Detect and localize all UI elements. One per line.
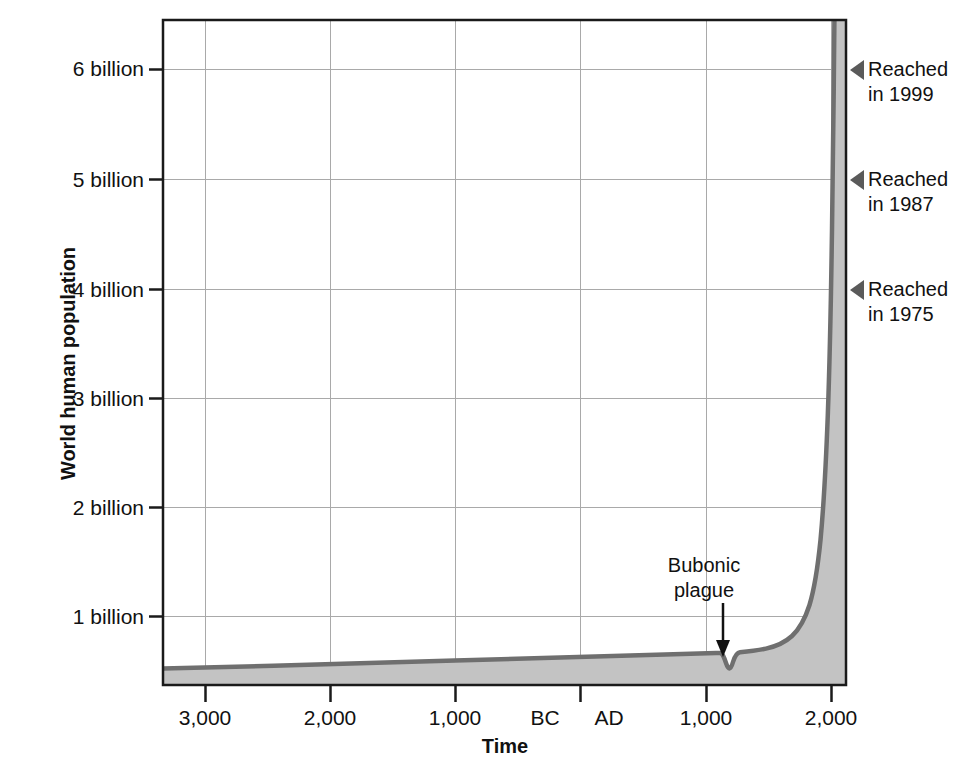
- marker-triangle-1999: [850, 60, 864, 80]
- y-axis-ticks: [149, 70, 163, 617]
- reached-markers: [850, 60, 864, 300]
- annotation-reached-1987-line2: in 1987: [868, 192, 948, 217]
- annotation-reached-1975-line2: in 1975: [868, 302, 948, 327]
- x-tick-label-1000ad: 1,000: [680, 706, 733, 730]
- annotation-reached-1999-line1: Reached: [868, 57, 948, 82]
- annotation-bubonic-plague-line2: plague: [629, 578, 779, 603]
- marker-triangle-1975: [850, 280, 864, 300]
- annotation-reached-1999-line2: in 1999: [868, 82, 948, 107]
- annotation-reached-1975-line1: Reached: [868, 277, 948, 302]
- x-axis-title: Time: [482, 735, 528, 758]
- plot-canvas: [0, 0, 973, 772]
- x-tick-label-3000bc: 3,000: [179, 706, 232, 730]
- annotation-reached-1987-line1: Reached: [868, 167, 948, 192]
- marker-triangle-1987: [850, 170, 864, 190]
- x-tick-label-1000bc: 1,000: [429, 706, 482, 730]
- population-growth-chart: World human population 6 billion 5 billi…: [0, 0, 973, 772]
- x-tick-label-2000ad: 2,000: [805, 706, 858, 730]
- annotation-reached-1987: Reached in 1987: [868, 167, 948, 217]
- x-tick-label-ad: AD: [594, 706, 623, 730]
- annotation-reached-1999: Reached in 1999: [868, 57, 948, 107]
- x-tick-label-2000bc: 2,000: [304, 706, 357, 730]
- annotation-bubonic-plague-line1: Bubonic: [629, 553, 779, 578]
- annotation-reached-1975: Reached in 1975: [868, 277, 948, 327]
- x-axis-ticks: [206, 685, 832, 702]
- x-tick-label-bc: BC: [530, 706, 559, 730]
- annotation-bubonic-plague: Bubonic plague: [629, 553, 779, 603]
